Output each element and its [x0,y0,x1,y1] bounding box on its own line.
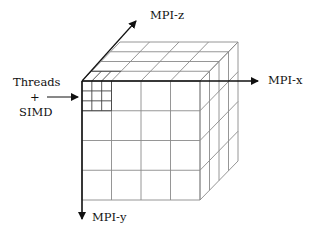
mpi-x-label: MPI-x [268,73,303,87]
subgrid-top-line [102,71,112,81]
cube-grid [82,42,238,200]
simd-label: SIMD [19,105,52,119]
threads-label: Threads [13,75,61,89]
mpi-z-label: MPI-z [150,8,184,22]
decomposition-diagram: MPI-z MPI-x MPI-y Threads + SIMD [0,0,311,235]
mpi-y-label: MPI-y [92,210,127,224]
mpi-z-axis-arrow [82,21,136,81]
plus-label: + [30,90,40,104]
subgrid-top-line [92,71,102,81]
